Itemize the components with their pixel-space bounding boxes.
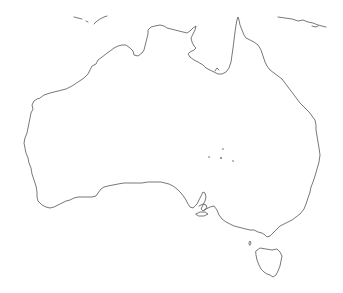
new-guinea-coast — [278, 17, 326, 27]
timor-islands-3 — [94, 16, 107, 24]
mainland-coastline — [24, 17, 320, 237]
timor-islands-2 — [86, 21, 88, 22]
new-guinea-islet — [312, 26, 318, 27]
coastlines — [24, 16, 326, 277]
islet-dot — [208, 156, 210, 158]
islet-dot — [222, 148, 224, 150]
timor-islands-1 — [74, 17, 82, 19]
australia-outline-map — [0, 0, 343, 293]
kangaroo-island — [196, 212, 208, 216]
gulf-island — [215, 68, 219, 71]
islet-dots — [208, 148, 234, 162]
tasmania — [256, 248, 282, 277]
king-island — [249, 241, 251, 245]
islet-dot — [220, 157, 222, 159]
islet-dot — [232, 160, 234, 162]
